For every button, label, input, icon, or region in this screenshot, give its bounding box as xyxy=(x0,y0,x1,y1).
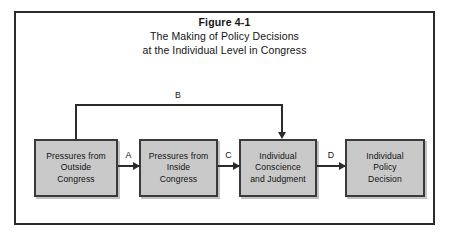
node-pressures-from-inside-congress: Pressures from Inside Congress xyxy=(139,139,218,197)
edge-label-b: B xyxy=(158,90,198,100)
node-label: Individual Policy Decision xyxy=(363,151,406,186)
figure-subtitle-line-1: The Making of Policy Decisions xyxy=(14,29,435,43)
node-individual-policy-decision: Individual Policy Decision xyxy=(345,139,425,197)
figure-diagram: Figure 4-1 The Making of Policy Decision… xyxy=(0,0,455,238)
node-individual-conscience-and-judgment: Individual Conscience and Judgment xyxy=(239,139,317,197)
edge-label-d: D xyxy=(317,150,345,160)
node-pressures-from-outside-congress: Pressures from Outside Congress xyxy=(34,139,118,197)
edge-arrow-a xyxy=(118,165,139,167)
figure-title-block: Figure 4-1 The Making of Policy Decision… xyxy=(14,15,435,57)
edge-arrow-c xyxy=(218,165,239,167)
edge-label-a: A xyxy=(118,150,139,160)
edge-label-c: C xyxy=(218,150,239,160)
feedback-path-b-arrow-down xyxy=(281,104,283,132)
node-label: Pressures from Inside Congress xyxy=(146,151,212,186)
figure-number: Figure 4-1 xyxy=(14,15,435,29)
figure-subtitle-line-2: at the Individual Level in Congress xyxy=(14,43,435,57)
node-label: Individual Conscience and Judgment xyxy=(247,151,309,186)
node-label: Pressures from Outside Congress xyxy=(43,151,109,186)
feedback-path-b-horizontal xyxy=(75,104,283,106)
edge-arrow-d xyxy=(317,165,345,167)
feedback-path-b-left-riser xyxy=(75,104,77,140)
